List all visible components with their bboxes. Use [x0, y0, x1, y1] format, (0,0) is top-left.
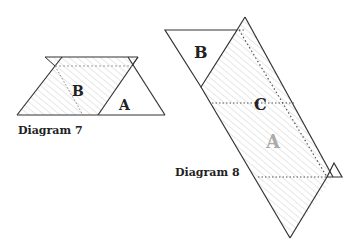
label-b8: B [194, 43, 208, 62]
diagram-8-caption: Diagram 8 [175, 166, 240, 179]
label-a: A [118, 97, 131, 113]
diagram-8: B C A Diagram 8 [165, 17, 342, 238]
label-c: C [254, 95, 267, 114]
label-b: B [72, 83, 84, 99]
label-a8: A [265, 131, 281, 152]
hatched-strip [201, 17, 333, 238]
diagram-7-caption: Diagram 7 [18, 124, 83, 137]
diagram-canvas: B A Diagram 7 B C A Diagram 8 [0, 0, 357, 250]
diagram-7: B A Diagram 7 [17, 57, 165, 137]
